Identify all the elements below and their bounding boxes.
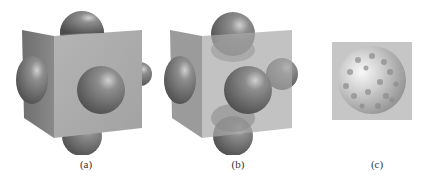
sphere-front <box>77 66 125 114</box>
panel-b-image <box>150 0 310 155</box>
panel-c-image <box>332 42 412 122</box>
sphere-left <box>16 56 48 104</box>
panel-a-image <box>0 0 160 155</box>
caption-b: (b) <box>232 158 245 170</box>
sphere-front <box>224 66 272 114</box>
caption-a: (a) <box>80 158 92 170</box>
sphere-left <box>164 56 196 104</box>
caption-c: (c) <box>371 158 383 170</box>
